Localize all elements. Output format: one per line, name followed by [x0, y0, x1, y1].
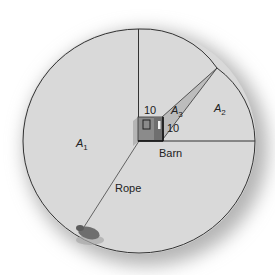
barn — [133, 117, 163, 146]
goat-head — [76, 225, 84, 231]
barn-window — [158, 121, 161, 129]
barn-shadow — [133, 117, 138, 146]
barn-label: Barn — [159, 147, 182, 159]
barn-top-dimension: 10 — [144, 104, 156, 116]
barn-right-dimension: 10 — [167, 122, 179, 134]
rope-label: Rope — [115, 182, 141, 194]
diagram-canvas: A1 A2 A3 10 10 Barn Rope — [0, 0, 275, 275]
